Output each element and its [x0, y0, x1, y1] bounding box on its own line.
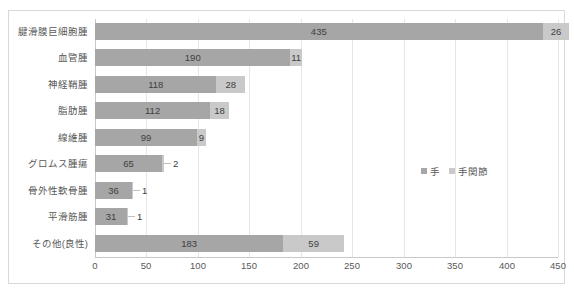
- bar-value-label: 26: [543, 23, 570, 40]
- bar-segment-1[interactable]: 435: [95, 23, 543, 40]
- bar-value-label: 11: [290, 49, 301, 66]
- chart-legend: 手手関節: [421, 164, 488, 178]
- legend-label: 手関節: [458, 164, 488, 178]
- stacked-bar[interactable]: 361: [95, 182, 133, 199]
- label-leader-line: [133, 190, 140, 191]
- category-label: 神経鞘腫: [48, 72, 88, 98]
- x-tick-label: 300: [384, 260, 424, 271]
- gridline: [352, 19, 353, 257]
- bar-segment-1[interactable]: 112: [95, 102, 210, 119]
- bar-segment-1[interactable]: 36: [95, 182, 132, 199]
- bar-value-label: 65: [95, 155, 162, 172]
- legend-swatch-icon: [421, 168, 427, 174]
- bar-segment-1[interactable]: 183: [95, 235, 283, 252]
- category-label: グロムス腫瘍: [28, 151, 88, 177]
- bar-value-label: 190: [95, 49, 290, 66]
- gridline: [455, 19, 456, 257]
- x-tick-label: 400: [487, 260, 527, 271]
- category-label: 血管腫: [58, 45, 88, 71]
- bar-segment-2[interactable]: 11: [290, 49, 301, 66]
- stacked-bar[interactable]: 311: [95, 208, 128, 225]
- bar-segment-2[interactable]: 2: [162, 155, 164, 172]
- bar-value-label: 18: [210, 102, 229, 119]
- bar-segment-1[interactable]: 118: [95, 76, 216, 93]
- category-label: 骨外性軟骨腫: [28, 178, 88, 204]
- stacked-bar[interactable]: 18359: [95, 235, 344, 252]
- bar-segment-2[interactable]: 9: [197, 129, 206, 146]
- label-leader-line: [164, 163, 171, 164]
- bar-value-label: 118: [95, 76, 216, 93]
- x-axis-line: [95, 257, 558, 258]
- bar-segment-2[interactable]: 59: [283, 235, 344, 252]
- x-tick-label: 250: [332, 260, 372, 271]
- category-label: その他(良性): [32, 231, 88, 257]
- bar-segment-2[interactable]: 18: [210, 102, 229, 119]
- bar-value-label: 9: [197, 129, 206, 146]
- stacked-bar[interactable]: 652: [95, 155, 164, 172]
- x-tick-label: 350: [435, 260, 475, 271]
- bar-segment-2[interactable]: 28: [216, 76, 245, 93]
- stacked-bar[interactable]: 999: [95, 129, 206, 146]
- bar-segment-1[interactable]: 31: [95, 208, 127, 225]
- x-tick-label: 200: [281, 260, 321, 271]
- x-tick-label: 450: [538, 260, 574, 271]
- stacked-bar[interactable]: 11218: [95, 102, 229, 119]
- x-tick-label: 150: [229, 260, 269, 271]
- category-label: 腱滑膜巨細胞腫: [18, 19, 88, 45]
- legend-item[interactable]: 手: [421, 164, 440, 178]
- bar-segment-1[interactable]: 65: [95, 155, 162, 172]
- bar-value-label: 435: [95, 23, 543, 40]
- bar-segment-2[interactable]: 26: [543, 23, 570, 40]
- legend-label: 手: [430, 164, 440, 178]
- bar-segment-1[interactable]: 190: [95, 49, 290, 66]
- legend-item[interactable]: 手関節: [449, 164, 488, 178]
- category-label: 平滑筋腫: [48, 204, 88, 230]
- bar-value-label: 99: [95, 129, 197, 146]
- bar-segment-1[interactable]: 99: [95, 129, 197, 146]
- x-tick-label: 0: [75, 260, 115, 271]
- gridline: [507, 19, 508, 257]
- gridline: [558, 19, 559, 257]
- bar-segment-2[interactable]: 1: [132, 182, 133, 199]
- chart-container: 腱滑膜巨細胞腫43526血管腫19011神経鞘腫11828脂肪腫11218線維腫…: [8, 10, 565, 284]
- plot-area: 腱滑膜巨細胞腫43526血管腫19011神経鞘腫11828脂肪腫11218線維腫…: [95, 19, 558, 257]
- bar-value-label: 31: [95, 208, 127, 225]
- stacked-bar[interactable]: 11828: [95, 76, 245, 93]
- bar-value-label: 112: [95, 102, 210, 119]
- bar-value-label: 36: [95, 182, 132, 199]
- label-leader-line: [128, 216, 135, 217]
- category-label: 線維腫: [58, 125, 88, 151]
- legend-swatch-icon: [449, 168, 455, 174]
- x-tick-label: 100: [178, 260, 218, 271]
- x-tick-label: 50: [126, 260, 166, 271]
- bar-value-label: 59: [283, 235, 344, 252]
- bar-segment-2[interactable]: 1: [127, 208, 128, 225]
- stacked-bar[interactable]: 43526: [95, 23, 569, 40]
- bar-value-label: 28: [216, 76, 245, 93]
- gridline: [404, 19, 405, 257]
- category-label: 脂肪腫: [58, 98, 88, 124]
- stacked-bar[interactable]: 19011: [95, 49, 302, 66]
- bar-value-label: 183: [95, 235, 283, 252]
